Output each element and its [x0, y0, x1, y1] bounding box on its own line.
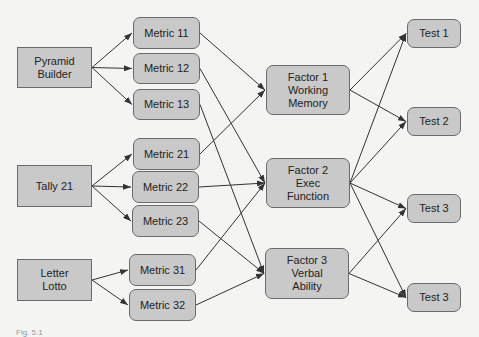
node-m31: Metric 31 [129, 254, 196, 286]
edge-f1-t2 [350, 90, 406, 122]
node-f2: Factor 2 Exec Function [266, 158, 350, 208]
node-t2: Test 2 [407, 107, 461, 136]
edge-m22-f2 [199, 183, 265, 187]
edge-f3-t3b [349, 274, 406, 298]
node-t21: Tally 21 [17, 165, 92, 207]
node-t3a: Test 3 [407, 194, 461, 223]
edge-ll-m32 [92, 280, 128, 305]
figure-caption: Fig. 5.1 [16, 328, 43, 337]
edge-f2-t1 [350, 34, 406, 184]
edge-m11-f1 [200, 33, 265, 90]
edge-f1-t1 [350, 34, 406, 91]
edge-f2-t2 [350, 122, 406, 184]
node-pb: Pyramid Builder [17, 47, 92, 88]
edge-f3-t3a [349, 209, 406, 274]
node-t1: Test 1 [407, 19, 461, 48]
edge-pb-m12 [92, 68, 132, 69]
edge-pb-m13 [92, 68, 132, 105]
edge-t21-m22 [92, 186, 131, 187]
edge-f2-t3a [350, 183, 406, 209]
node-ll: Letter Lotto [17, 259, 92, 301]
edge-m32-f3 [196, 274, 264, 306]
node-m12: Metric 12 [133, 53, 200, 84]
edge-pb-m11 [92, 33, 132, 68]
node-m11: Metric 11 [133, 17, 200, 49]
node-f3: Factor 3 Verbal Ability [265, 248, 349, 299]
node-m21: Metric 21 [133, 138, 200, 170]
node-m22: Metric 22 [132, 171, 199, 203]
node-m13: Metric 13 [133, 89, 200, 120]
node-m23: Metric 23 [132, 205, 199, 237]
edge-t21-m21 [92, 154, 132, 186]
node-m32: Metric 32 [129, 289, 196, 321]
edge-ll-m31 [92, 270, 128, 280]
node-f1: Factor 1 Working Memory [266, 65, 350, 115]
edge-t21-m23 [92, 186, 131, 221]
edge-m21-f1 [200, 90, 265, 154]
edge-m12-f2 [200, 69, 265, 184]
node-t3b: Test 3 [407, 283, 461, 312]
